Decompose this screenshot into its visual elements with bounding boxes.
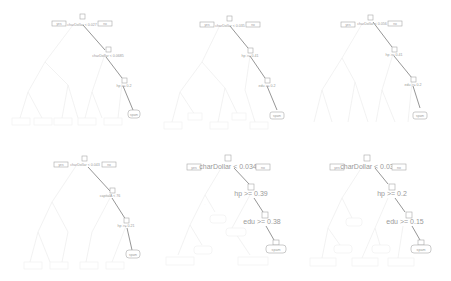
node-id-box (106, 47, 111, 52)
node-id-box (265, 78, 270, 83)
no-label: no (107, 163, 111, 167)
node-id-box (225, 155, 231, 161)
split-node-3: charDollar < 0.0685 (92, 54, 123, 58)
node-id-box (411, 77, 416, 82)
no-label: no (397, 166, 401, 170)
node-id-box (392, 47, 397, 52)
split-node-7: edu >= 0.2 (258, 84, 275, 88)
faded-subtree (24, 166, 126, 269)
node-id-box (273, 240, 279, 245)
leaf-label: spam (417, 248, 426, 252)
path-edge (123, 86, 133, 110)
root-split: charDollar < 0.034 (199, 163, 257, 170)
leaf-label: spam (272, 248, 281, 252)
path-edge (250, 56, 265, 78)
tree-panel-3: yes charDollar < 0.056 no hp >= 0.41 edu… (300, 0, 450, 140)
path-edge (394, 56, 412, 78)
tree-panel-2: yes charDollar < 0.035 no hp >= 0.41 edu… (150, 0, 300, 140)
leaf-label: spam (130, 113, 138, 117)
split-node-3: capitalA < 76 (100, 194, 121, 198)
node-id-box (122, 78, 127, 83)
no-label: no (393, 22, 397, 26)
tree-panel-5: · yes charDollar < 0.034 no hp >= 0.39 e… (150, 140, 300, 280)
yes-label: yes (334, 166, 340, 170)
leaf-label: spam (416, 114, 424, 118)
no-label: no (251, 23, 255, 27)
faded-subtree (12, 25, 122, 125)
split-node-7: hp >= 0.21 (117, 224, 134, 228)
split-node-7: edu >= 0.15 (386, 218, 423, 225)
no-label: no (103, 22, 107, 26)
tree-diagram: yes charDollar < 0.035 no hp >= 0.41 edu… (150, 0, 300, 140)
yes-label: yes (57, 22, 62, 26)
path-edge (413, 86, 420, 108)
faded-subtree (164, 25, 268, 129)
split-node-7: edu >= 0.2 (404, 83, 421, 87)
split-node-3: hp >= 0.2 (377, 190, 407, 198)
tree-diagram: yes charDollar < 0.056 no hp >= 0.41 edu… (300, 0, 450, 140)
split-node-3: hp >= 0.41 (241, 54, 258, 58)
path-edge (267, 86, 277, 110)
root-split: charDollar < 0.03 (340, 163, 394, 170)
path-edge (375, 168, 388, 184)
split-node-7: hp >= 0.2 (116, 84, 131, 88)
node-id-box (418, 240, 424, 245)
tree-diagram: yes charDollar < 0.043 no capitalA < 76 … (0, 140, 150, 280)
path-edge (230, 26, 248, 48)
node-id-box (124, 218, 129, 223)
yes-label: yes (191, 166, 197, 170)
root-split: charDollar < 0.035 (215, 24, 244, 28)
yes-label: yes (346, 23, 351, 27)
node-id-box (110, 188, 115, 193)
split-node-3: hp >= 0.41 (385, 53, 402, 57)
path-edge (254, 198, 263, 212)
faded-subtree (314, 24, 412, 122)
node-id-box (248, 48, 253, 53)
path-edge (127, 228, 132, 250)
path-edge (106, 57, 122, 78)
path-edge (88, 167, 110, 191)
leaf-label: spam (129, 253, 137, 257)
path-edge (412, 226, 420, 240)
node-id-box (368, 15, 373, 20)
leaf-label: spam (273, 114, 281, 118)
tree-diagram: · yes charDollar < 0.034 no hp >= 0.39 e… (150, 140, 300, 280)
root-split: charDollar < 0.027 (67, 23, 96, 27)
yes-label: yes (59, 163, 64, 167)
yes-label: yes (205, 23, 210, 27)
tree-panel-6: yes charDollar < 0.03 no hp >= 0.2 edu >… (300, 140, 450, 280)
root-split: charDollar < 0.056 (357, 22, 386, 26)
node-id-box (364, 155, 370, 161)
tree-diagram: yes charDollar < 0.03 no hp >= 0.2 edu >… (300, 140, 450, 280)
tree-panel-4: yes charDollar < 0.043 no capitalA < 76 … (0, 140, 150, 280)
path-edge (395, 198, 405, 212)
path-edge (266, 226, 274, 240)
svg-text:·: · (204, 202, 205, 207)
split-node-7: edu >= 0.38 (243, 218, 280, 225)
tree-diagram: yes charDollar < 0.027 no charDollar < 0… (0, 0, 150, 140)
tree-panel-1: yes charDollar < 0.027 no charDollar < 0… (0, 0, 150, 140)
node-id-box (227, 16, 232, 21)
no-label: no (261, 166, 265, 170)
split-node-3: hp >= 0.39 (234, 190, 268, 198)
node-id-box (82, 156, 87, 161)
node-id-box (80, 14, 85, 19)
path-edge (234, 168, 249, 184)
path-edge (112, 198, 126, 220)
path-edge (83, 25, 105, 50)
root-split: charDollar < 0.043 (70, 163, 99, 167)
